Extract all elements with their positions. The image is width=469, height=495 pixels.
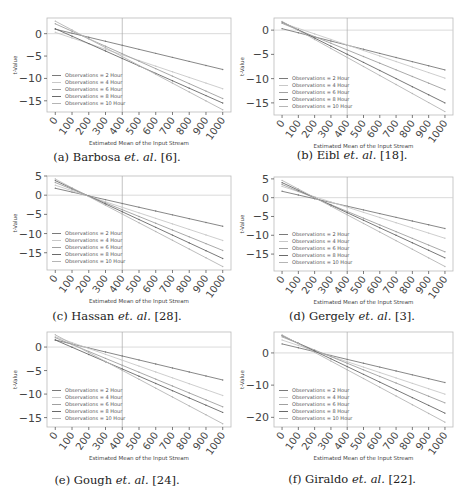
x-tick-label: 600 xyxy=(140,430,160,452)
legend-label: Observations = 10 Hour xyxy=(292,103,352,110)
legend-label: Observations = 8 Hour xyxy=(65,93,122,100)
x-tick-label: 700 xyxy=(381,430,401,452)
legend-item: Observations = 4 Hour xyxy=(52,79,125,86)
y-tick-label: −5 xyxy=(253,48,269,61)
legend-item: Observations = 8 Hour xyxy=(279,408,352,415)
x-tick-label: 300 xyxy=(90,430,110,452)
legend-swatch xyxy=(52,261,61,262)
x-tick-label: 0 xyxy=(47,273,60,285)
legend-swatch xyxy=(279,92,288,93)
panel-caption: (c) Hassan et. al. [28]. xyxy=(0,309,234,323)
x-tick-label: 400 xyxy=(332,274,352,296)
x-tick-label: 300 xyxy=(90,273,110,295)
x-tick-label: 800 xyxy=(174,273,194,295)
legend-swatch xyxy=(52,89,61,90)
x-tick-label: 0 xyxy=(47,430,60,442)
legend-item: Observations = 2 Hour xyxy=(52,72,125,79)
panel-caption: (e) Gough et. al. [24]. xyxy=(0,473,234,487)
legend-swatch xyxy=(52,82,61,83)
x-tick-label: 800 xyxy=(174,430,194,452)
x-tick-label: 700 xyxy=(157,273,177,295)
legend-label: Observations = 2 Hour xyxy=(65,387,122,394)
chart-panel-f: 0−10−2001002003004005006007008009001000t… xyxy=(235,330,469,495)
legend-item: Observations = 8 Hour xyxy=(52,408,125,415)
legend-swatch xyxy=(52,240,61,241)
legend-item: Observations = 6 Hour xyxy=(52,86,125,93)
y-tick-label: 0 xyxy=(35,189,42,202)
legend-item: Observations = 4 Hour xyxy=(279,394,352,401)
legend-item: Observations = 2 Hour xyxy=(279,75,352,82)
y-tick-label: −5 xyxy=(253,210,269,223)
y-tick-label: −15 xyxy=(246,248,269,261)
y-tick-label: −15 xyxy=(19,247,42,260)
legend-item: Observations = 4 Hour xyxy=(279,82,352,89)
x-tick-label: 100 xyxy=(283,274,303,296)
y-tick-label: −5 xyxy=(26,365,42,378)
legend-item: Observations = 6 Hour xyxy=(279,401,352,408)
y-tick-label: −10 xyxy=(246,73,269,86)
legend-swatch xyxy=(279,255,288,256)
chart-panel-b: 0−5−10−150100200300400500600700800900100… xyxy=(235,0,469,165)
x-tick-label: 400 xyxy=(332,118,352,140)
legend-swatch xyxy=(52,411,61,412)
legend-item: Observations = 2 Hour xyxy=(52,230,125,237)
legend-item: Observations = 10 Hour xyxy=(52,415,125,422)
legend-item: Observations = 2 Hour xyxy=(279,387,352,394)
legend-label: Observations = 4 Hour xyxy=(292,238,349,245)
legend-item: Observations = 10 Hour xyxy=(279,415,352,422)
x-tick-label: 500 xyxy=(124,115,144,137)
x-tick-label: 300 xyxy=(316,118,336,140)
x-tick-label: 100 xyxy=(57,115,77,137)
legend-label: Observations = 8 Hour xyxy=(292,408,349,415)
x-tick-label: 600 xyxy=(364,274,384,296)
x-tick-label: 300 xyxy=(316,274,336,296)
legend-label: Observations = 6 Hour xyxy=(292,89,349,96)
y-tick-label: −5 xyxy=(26,208,42,221)
y-tick-label: −15 xyxy=(246,97,269,110)
x-tick-label: 800 xyxy=(397,118,417,140)
panel-caption: (b) Eibl et. al. [18]. xyxy=(235,148,469,162)
legend-swatch xyxy=(279,404,288,405)
legend-item: Observations = 10 Hour xyxy=(52,100,125,107)
legend-label: Observations = 6 Hour xyxy=(292,245,349,252)
panel-caption: (a) Barbosa et. al. [6]. xyxy=(0,150,234,164)
x-tick-label: 800 xyxy=(397,430,417,452)
x-axis-label: Estimated Mean of the Input Stream xyxy=(314,299,414,306)
legend-swatch xyxy=(279,78,288,79)
legend-item: Observations = 6 Hour xyxy=(279,245,352,252)
legend-swatch xyxy=(279,234,288,235)
legend-swatch xyxy=(279,85,288,86)
legend-label: Observations = 10 Hour xyxy=(292,415,352,422)
legend-item: Observations = 4 Hour xyxy=(52,237,125,244)
x-tick-label: 300 xyxy=(316,430,336,452)
legend-swatch xyxy=(52,390,61,391)
legend-label: Observations = 6 Hour xyxy=(65,86,122,93)
x-tick-label: 800 xyxy=(174,115,194,137)
legend-item: Observations = 8 Hour xyxy=(279,252,352,259)
legend-item: Observations = 8 Hour xyxy=(52,251,125,258)
legend-label: Observations = 8 Hour xyxy=(65,251,122,258)
x-axis-label: Estimated Mean of the Input Stream xyxy=(314,455,414,462)
x-tick-label: 400 xyxy=(107,115,127,137)
x-tick-label: 200 xyxy=(73,430,93,452)
x-axis-label: Estimated Mean of the Input Stream xyxy=(89,298,189,305)
x-tick-label: 400 xyxy=(107,430,127,452)
legend-item: Observations = 10 Hour xyxy=(279,259,352,266)
legend-label: Observations = 10 Hour xyxy=(65,258,125,265)
x-tick-label: 100 xyxy=(283,430,303,452)
legend-swatch xyxy=(52,75,61,76)
x-tick-label: 600 xyxy=(140,115,160,137)
chart-legend: Observations = 2 HourObservations = 4 Ho… xyxy=(52,387,125,422)
legend-swatch xyxy=(279,99,288,100)
x-tick-label: 800 xyxy=(397,274,417,296)
legend-label: Observations = 2 Hour xyxy=(292,387,349,394)
chart-panel-e: 0−5−10−150100200300400500600700800900100… xyxy=(0,330,234,495)
legend-label: Observations = 8 Hour xyxy=(65,408,122,415)
panel-caption: (f) Giraldo et. al. [22]. xyxy=(235,472,469,486)
y-tick-label: −10 xyxy=(19,228,42,241)
y-tick-label: 0 xyxy=(35,341,42,354)
y-tick-label: −10 xyxy=(19,72,42,85)
legend-item: Observations = 4 Hour xyxy=(279,238,352,245)
x-tick-label: 500 xyxy=(124,273,144,295)
legend-swatch xyxy=(52,233,61,234)
